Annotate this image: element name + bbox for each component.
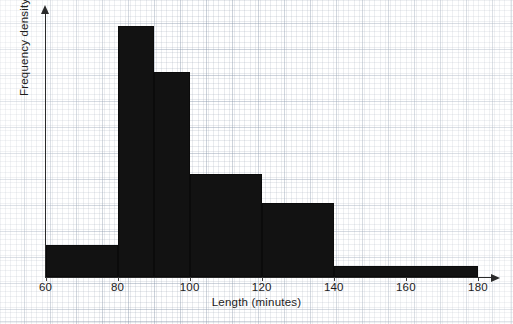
x-axis-line: [45, 277, 496, 278]
x-axis-arrow-icon: [491, 274, 500, 282]
x-axis-tick-label: 140: [324, 281, 344, 293]
x-axis-tick-label: 180: [468, 281, 488, 293]
histogram-bar: [334, 266, 478, 277]
x-axis-title: Length (minutes): [0, 296, 513, 308]
histogram-bar: [190, 174, 262, 277]
histogram-bar: [154, 72, 190, 277]
y-axis-line: [45, 12, 46, 278]
histogram-bar: [118, 26, 154, 277]
x-axis-tick-label: 80: [111, 281, 124, 293]
histogram-bar: [46, 245, 118, 277]
x-axis-tick-label: 100: [180, 281, 200, 293]
y-axis-title: Frequency density: [18, 0, 30, 96]
plot-area: 6080100120140160180: [0, 0, 513, 324]
histogram-bar: [262, 203, 334, 277]
x-axis-tick-label: 120: [252, 281, 272, 293]
x-axis-tick-label: 160: [396, 281, 416, 293]
x-axis-tick-label: 60: [39, 281, 52, 293]
y-axis-arrow-icon: [41, 5, 49, 14]
histogram-page: 6080100120140160180 Length (minutes) Fre…: [0, 0, 513, 324]
